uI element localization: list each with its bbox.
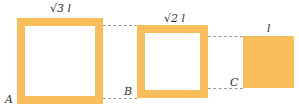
medium-square-label: √2 l [164,13,185,24]
large-square-label: √3 l [50,3,71,14]
medium-hollow-square [137,25,208,98]
bottom-dash-1 [103,98,137,99]
small-solid-square [243,36,294,88]
point-b-label: B [124,86,132,97]
small-square-label: l [267,23,271,34]
top-dash-1 [103,25,137,26]
large-hollow-square [17,18,103,104]
top-dash-2 [208,36,243,37]
point-c-label: C [230,77,238,88]
point-a-label: A [5,94,13,105]
